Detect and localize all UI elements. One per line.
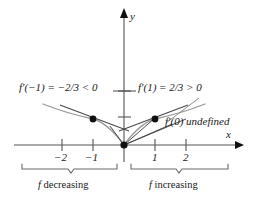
brace-decreasing [22, 164, 117, 173]
brace-label-increasing-text: increasing [152, 179, 198, 190]
x-axis-label: x [226, 129, 231, 140]
origin-slope-annotation: f′(0) undefined [165, 116, 229, 127]
brace-label-decreasing-text: decreasing [41, 179, 89, 190]
x-tick-label-pos2: 2 [183, 152, 189, 163]
left-slope-annotation: f′(−1) = −2/3 < 0 [19, 82, 98, 93]
x-tick-label-neg1: −1 [85, 152, 98, 163]
graph-canvas [0, 0, 255, 205]
x-tick-label-pos1: 1 [152, 152, 158, 163]
x-tick-label-neg2: −2 [54, 152, 67, 163]
left-tangent-point [90, 116, 97, 123]
y-axis-label: y [130, 11, 135, 22]
brace-label-decreasing: f decreasing [38, 180, 88, 191]
brace-label-increasing: f increasing [149, 180, 198, 191]
origin-cusp-point [120, 141, 127, 148]
right-slope-annotation: f′(1) = 2/3 > 0 [138, 82, 202, 93]
y-axis [120, 8, 128, 162]
calculus-figure: y x −2 −1 1 2 f′(−1) = −2/3 < 0 f′(1) = … [0, 0, 255, 205]
right-tangent-point [152, 116, 159, 123]
x-axis [14, 141, 244, 149]
brace-increasing [131, 164, 228, 173]
